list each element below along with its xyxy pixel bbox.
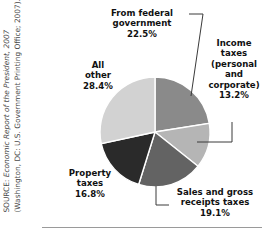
pie-chart-figure: SOURCE: Economic Report of the President… — [0, 0, 277, 238]
pie-label-from-federal-government: From federal government 22.5% — [96, 8, 188, 39]
bottom-divider-rule — [42, 227, 262, 228]
pie-label-income-taxes: Income taxes (personal and corporate) 13… — [198, 38, 270, 100]
pie-label-property-taxes: Property taxes 16.8% — [54, 168, 126, 199]
pie-label-sales-and-gross-receipts-taxes: Sales and gross receipts taxes 19.1% — [160, 187, 270, 218]
pie-label-all-other: All other 28.4% — [62, 60, 134, 91]
